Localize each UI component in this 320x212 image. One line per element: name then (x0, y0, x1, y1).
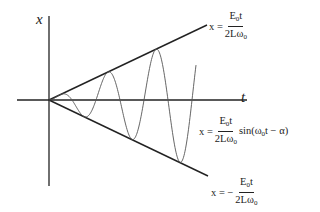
wave-equation: x = E0t 2Lω0 sin(ω0t − α) (199, 115, 288, 148)
lower-envelope-line (49, 100, 208, 176)
eq-lhs: x = (199, 126, 213, 137)
den-sub: 0 (254, 199, 258, 207)
sin-term: sin(ω0t − α) (239, 125, 288, 138)
den-sub: 0 (233, 138, 237, 146)
upper-envelope-equation: x = E0t 2Lω0 (209, 10, 249, 43)
x-axis-label: x (36, 11, 43, 28)
t-axis-label: t (241, 89, 245, 106)
eq-lhs: x = − (211, 187, 233, 198)
num-tail: t (239, 10, 242, 21)
fraction: E0t 2Lω0 (225, 10, 247, 43)
upper-envelope-line (49, 25, 207, 100)
num-tail: t (250, 176, 253, 187)
oscillating-wave-curve (49, 49, 196, 162)
fraction: E0t 2Lω0 (235, 176, 257, 209)
den-sub: 0 (243, 33, 247, 41)
den-base: 2Lω (215, 133, 234, 144)
sin-pre: sin(ω (239, 125, 262, 136)
den-base: 2Lω (225, 28, 244, 39)
sin-post: t − α) (265, 125, 288, 136)
den-base: 2Lω (235, 194, 254, 205)
lower-envelope-equation: x = − E0t 2Lω0 (211, 176, 259, 209)
num-tail: t (229, 115, 232, 126)
eq-lhs: x = (209, 21, 223, 32)
fraction: E0t 2Lω0 (215, 115, 237, 148)
